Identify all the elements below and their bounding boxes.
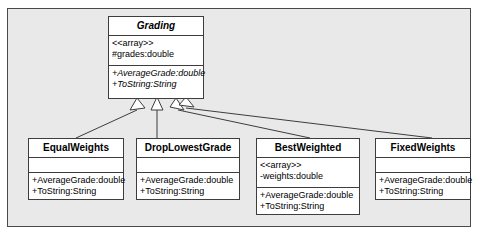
- operation-line: +AverageGrade:double: [140, 175, 236, 186]
- operation-line: +ToString:String: [112, 79, 200, 90]
- diagram-canvas: Grading <<array>> #grades:double +Averag…: [0, 0, 488, 235]
- class-operations-fixedweights: +AverageGrade:double +ToString:String: [376, 173, 470, 199]
- class-attributes-fixedweights: [376, 158, 470, 173]
- class-operations-grading: +AverageGrade:double +ToString:String: [109, 66, 203, 98]
- class-name-droplowestgrade: DropLowestGrade: [137, 139, 239, 158]
- generalization-line-fixedweights: [186, 108, 432, 138]
- class-box-bestweighted[interactable]: BestWeighted <<array>> -weights:double +…: [256, 138, 360, 215]
- class-operations-droplowestgrade: +AverageGrade:double +ToString:String: [137, 173, 239, 199]
- attribute-line: <<array>>: [112, 38, 200, 49]
- class-attributes-equalweights: [29, 158, 123, 173]
- attribute-line: <<array>>: [260, 160, 356, 171]
- generalization-line-equalweights: [76, 110, 137, 138]
- attribute-line: #grades:double: [112, 49, 200, 60]
- class-attributes-droplowestgrade: [137, 158, 239, 173]
- class-name-equalweights: EqualWeights: [29, 139, 123, 158]
- class-operations-equalweights: +AverageGrade:double +ToString:String: [29, 173, 123, 199]
- class-box-grading[interactable]: Grading <<array>> #grades:double +Averag…: [108, 16, 204, 99]
- class-attributes-bestweighted: <<array>> -weights:double: [257, 158, 359, 188]
- operation-line: +ToString:String: [32, 186, 120, 197]
- operation-line: +AverageGrade:double: [260, 190, 356, 201]
- class-operations-bestweighted: +AverageGrade:double +ToString:String: [257, 188, 359, 214]
- operation-line: +AverageGrade:double: [379, 175, 467, 186]
- operation-line: +AverageGrade:double: [112, 68, 200, 79]
- attribute-line: -weights:double: [260, 171, 356, 182]
- class-attributes-grading: <<array>> #grades:double: [109, 36, 203, 66]
- operation-line: +AverageGrade:double: [32, 175, 120, 186]
- class-name-fixedweights: FixedWeights: [376, 139, 470, 158]
- generalization-arrowhead-equalweights: [130, 98, 145, 110]
- operation-line: +ToString:String: [140, 186, 236, 197]
- class-box-fixedweights[interactable]: FixedWeights +AverageGrade:double +ToStr…: [375, 138, 471, 200]
- class-box-droplowestgrade[interactable]: DropLowestGrade +AverageGrade:double +To…: [136, 138, 240, 200]
- generalization-line-bestweighted: [178, 110, 310, 138]
- class-box-equalweights[interactable]: EqualWeights +AverageGrade:double +ToStr…: [28, 138, 124, 200]
- operation-line: +ToString:String: [260, 201, 356, 212]
- class-name-grading: Grading: [109, 17, 203, 36]
- class-name-bestweighted: BestWeighted: [257, 139, 359, 158]
- operation-line: +ToString:String: [379, 186, 467, 197]
